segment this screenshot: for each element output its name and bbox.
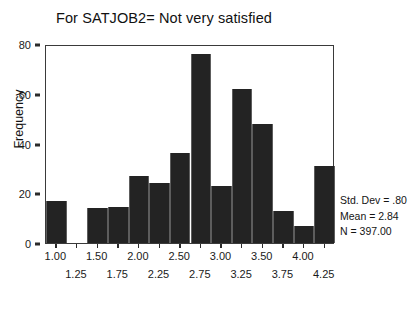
x-axis-tick-label: 1.50	[86, 250, 107, 262]
histogram-bar	[129, 176, 150, 243]
y-axis-title: Frequency	[12, 64, 26, 174]
histogram-bar	[232, 89, 253, 243]
x-axis-tick-label: 2.75	[189, 268, 210, 280]
x-axis-tick-label: 4.25	[313, 268, 334, 280]
x-axis-tick-mark	[200, 244, 201, 248]
x-axis-tick-mark	[117, 244, 118, 248]
x-axis-tick-mark	[262, 244, 263, 248]
plot-area	[45, 45, 334, 244]
x-axis-tick-label: 1.00	[45, 250, 66, 262]
x-axis-tick-mark	[55, 244, 56, 248]
x-axis-tick-label: 3.50	[251, 250, 272, 262]
y-axis-tick-mark	[35, 243, 40, 246]
x-axis-tick-mark	[179, 244, 180, 248]
x-axis-tick-label: 2.50	[168, 250, 189, 262]
x-axis-tick-label: 1.25	[65, 268, 86, 280]
y-axis-tick-mark	[35, 193, 40, 196]
y-axis-tick-mark	[35, 143, 40, 146]
x-axis-tick-mark	[159, 244, 160, 248]
histogram-bars	[46, 46, 333, 243]
x-axis-tick-mark	[324, 244, 325, 248]
histogram-bar	[191, 54, 212, 243]
x-axis-tick-label: 2.00	[127, 250, 148, 262]
histogram-bar	[170, 153, 191, 243]
y-axis-tick-mark	[35, 93, 40, 96]
statistics-annotation: Std. Dev = .80 Mean = 2.84 N = 397.00	[340, 193, 407, 240]
x-axis-tick-label: 3.75	[272, 268, 293, 280]
histogram-bar	[294, 226, 315, 243]
x-axis-tick-label: 3.00	[210, 250, 231, 262]
stat-n: N = 397.00	[340, 224, 407, 240]
x-axis-tick-mark	[282, 244, 283, 248]
x-axis-tick-mark	[220, 244, 221, 248]
x-axis-tick-mark	[303, 244, 304, 248]
histogram-bar	[149, 183, 170, 243]
histogram-bar	[211, 186, 232, 243]
histogram-bar	[252, 124, 273, 243]
histogram-bar	[46, 201, 67, 243]
chart-title: For SATJOB2= Not very satisfied	[56, 10, 272, 26]
y-axis-tick-mark	[35, 44, 40, 47]
x-axis-tick-label: 1.75	[107, 268, 128, 280]
x-axis-tick-mark	[76, 244, 77, 248]
x-axis-tick-mark	[241, 244, 242, 248]
y-axis-tick-label: 80	[19, 39, 31, 51]
x-axis-tick-mark	[97, 244, 98, 248]
histogram-bar	[87, 208, 108, 243]
histogram-bar	[314, 166, 335, 243]
x-axis-tick-label: 4.00	[292, 250, 313, 262]
x-axis-labels: 1.001.251.501.752.002.252.502.753.003.25…	[45, 249, 334, 295]
y-axis-tick-label: 0	[25, 238, 31, 250]
y-axis-tick-label: 20	[19, 188, 31, 200]
stat-mean: Mean = 2.84	[340, 209, 407, 225]
histogram-bar	[108, 207, 129, 243]
x-axis-tick-label: 2.25	[148, 268, 169, 280]
x-axis-tick-mark	[138, 244, 139, 248]
x-axis-tick-label: 3.25	[230, 268, 251, 280]
stat-std-dev: Std. Dev = .80	[340, 193, 407, 209]
histogram-bar	[273, 211, 294, 243]
